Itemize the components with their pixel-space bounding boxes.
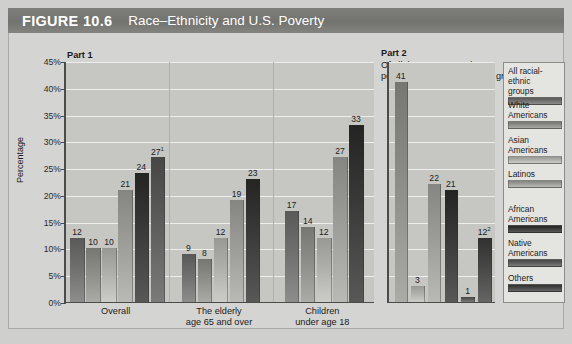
y-axis-tick-mark [61, 89, 66, 90]
bar: 12 [70, 238, 85, 302]
legend-item-label: White Americans [508, 100, 562, 120]
y-axis-tick-label: 40% [44, 84, 61, 94]
bar: 10 [102, 248, 117, 302]
y-axis-tick-label: 25% [44, 164, 61, 174]
legend-item: Latinos [508, 169, 562, 188]
bar: 271 [151, 157, 166, 302]
bar-value-label: 122 [478, 226, 491, 237]
legend-item: Native Americans [508, 238, 562, 267]
bar: 10 [86, 248, 101, 302]
bar-value-label: 17 [287, 200, 297, 210]
gridline [66, 142, 374, 143]
y-axis-tick-mark [61, 169, 66, 170]
part2-plot-area: 41322211122 [387, 62, 495, 303]
y-axis-tick-label: 10% [44, 244, 61, 254]
gridline [66, 62, 374, 63]
gridline [66, 169, 374, 170]
legend-item-label: Asian Americans [508, 135, 562, 155]
legend-color-swatch [508, 225, 562, 233]
bar-value-label: 3 [415, 275, 420, 285]
bar: 17 [285, 211, 300, 302]
y-axis-tick-mark [61, 223, 66, 224]
y-axis-tick-label: 30% [44, 137, 61, 147]
bar-value-label: 271 [151, 146, 164, 157]
chart-legend: All racial- ethnic groupsWhite Americans… [503, 62, 565, 303]
bar: 27 [333, 157, 348, 302]
bar: 8 [198, 259, 213, 302]
y-axis-tick-mark [61, 303, 66, 304]
bar-value-label: 33 [351, 114, 361, 124]
y-axis-tick-label: 15% [44, 218, 61, 228]
y-axis-label: Percentage [15, 137, 25, 183]
legend-item: Asian Americans [508, 135, 562, 164]
bar-value-label: 12 [216, 227, 226, 237]
bar-value-label: 1 [465, 286, 470, 296]
bar: 19 [230, 200, 245, 302]
y-axis-tick-mark [61, 249, 66, 250]
bar-value-label: 41 [396, 71, 406, 81]
bar: 12 [214, 238, 229, 302]
legend-item: All racial- ethnic groups [508, 66, 562, 105]
y-axis-tick-label: 0% [49, 298, 61, 308]
bar: 1 [461, 297, 475, 302]
bar-value-label: 24 [137, 162, 147, 172]
bar: 14 [301, 227, 316, 302]
x-axis-group-label: Overall [64, 306, 167, 317]
bar-value-label: 23 [248, 168, 258, 178]
bar: 23 [246, 179, 261, 302]
bar-value-label: 8 [202, 248, 207, 258]
bar-value-label: 21 [120, 179, 130, 189]
y-axis-tick-mark [61, 116, 66, 117]
bar-value-label: 9 [186, 243, 191, 253]
gridline [66, 196, 374, 197]
bar-value-label: 10 [88, 237, 98, 247]
bar-value-label: 19 [232, 189, 242, 199]
bar-value-label: 12 [319, 227, 329, 237]
bar: 24 [135, 173, 150, 302]
part1-plot-area: 0%5%10%15%20%25%30%35%40%45%121010212427… [64, 62, 374, 303]
legend-item-label: All racial- ethnic groups [508, 66, 562, 96]
legend-item: White Americans [508, 100, 562, 129]
part2-heading-bold: Part 2 [381, 48, 407, 58]
legend-item-label: Others [508, 273, 562, 283]
group-separator [169, 62, 170, 302]
bar: 22 [428, 184, 442, 302]
bar: 33 [349, 125, 364, 302]
figure-container: FIGURE 10.6 Race–Ethnicity and U.S. Pove… [0, 0, 572, 344]
part1-heading-bold: Part 1 [67, 50, 93, 60]
bar: 21 [445, 190, 459, 302]
bar-value-label: 22 [429, 173, 439, 183]
gridline [66, 116, 374, 117]
y-axis-tick-mark [61, 196, 66, 197]
y-axis-tick-label: 20% [44, 191, 61, 201]
legend-color-swatch [508, 259, 562, 267]
bar-value-label: 27 [335, 146, 345, 156]
y-axis-tick-mark [61, 62, 66, 63]
figure-title: Race–Ethnicity and U.S. Poverty [112, 13, 324, 28]
bar-value-label: 14 [303, 216, 313, 226]
gridline [66, 223, 374, 224]
group-separator [273, 62, 274, 302]
legend-item: Others [508, 273, 562, 292]
legend-color-swatch [508, 121, 562, 129]
gridline [389, 62, 495, 63]
y-axis-tick-mark [61, 276, 66, 277]
legend-color-swatch [508, 180, 562, 188]
bar: 122 [478, 238, 492, 302]
figure-title-bar: FIGURE 10.6 Race–Ethnicity and U.S. Pove… [8, 8, 564, 33]
y-axis-tick-label: 5% [49, 271, 61, 281]
legend-color-swatch [508, 284, 562, 292]
figure-number-label: FIGURE 10.6 [8, 13, 112, 29]
bar: 9 [182, 254, 197, 302]
x-axis-group-label: The elderly age 65 and over [167, 306, 270, 328]
gridline [66, 89, 374, 90]
bar: 41 [395, 82, 409, 302]
bar-value-label: 12 [72, 227, 82, 237]
legend-color-swatch [508, 156, 562, 164]
x-axis-group-label: Children under age 18 [271, 306, 374, 328]
bar: 12 [317, 238, 332, 302]
y-axis-tick-label: 35% [44, 111, 61, 121]
legend-item-label: African Americans [508, 204, 562, 224]
y-axis-tick-mark [61, 142, 66, 143]
bar: 3 [411, 286, 425, 302]
